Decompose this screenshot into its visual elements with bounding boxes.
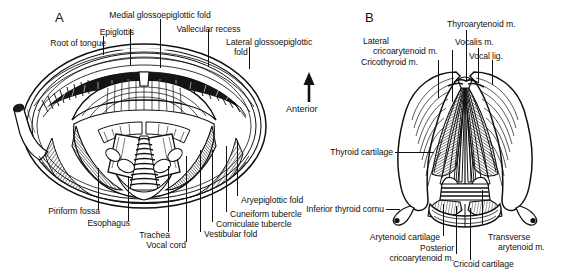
leader-cricothyroid [438, 60, 439, 98]
leader-thyroid-cartilage [395, 152, 434, 153]
leader-inferior-thyroid-cornu [386, 209, 400, 210]
label-corniculate-tubercle: Corniculate tubercle [216, 219, 291, 229]
leader-trachea [168, 166, 169, 232]
label-lateral-glossoepiglottic-fold: Lateral glossoepiglottic fold [226, 37, 336, 57]
leader-transverse-arytenoid [482, 190, 483, 225]
label-transverse-arytenoid-line2: arytenoid m. [498, 242, 545, 252]
label-epiglottis: Epiglottis [60, 27, 134, 37]
label-lateral-glossoepiglottic-line1: Lateral glossoepiglottic [226, 37, 312, 47]
label-transverse-arytenoid: Transverse arytenoid m. [488, 232, 545, 252]
label-piriform-fossa: Piriform fossa [10, 206, 100, 216]
label-vocal-cord: Vocal cord [120, 240, 186, 250]
leader-vallecular-recess [208, 29, 209, 67]
label-arytenoid-cartilage: Arytenoid cartilage [348, 232, 440, 242]
leader-lateral-cricoarytenoid [452, 50, 453, 102]
label-cricoid-cartilage: Cricoid cartilage [453, 259, 514, 269]
panel-b-illustration [370, 58, 560, 228]
anterior-label: Anterior [286, 104, 318, 114]
label-vestibular-fold: Vestibular fold [204, 229, 257, 239]
label-posterior-cricoarytenoid: Posterior cricoarytenoid m. [350, 243, 454, 263]
leader-esophagus [128, 176, 129, 221]
anterior-arrow-icon [299, 72, 319, 102]
label-vallecular-recess: Vallecular recess [155, 24, 262, 34]
leader-vocal-lig [492, 60, 493, 85]
label-inferior-thyroid-cornu: Inferior thyroid cornu [288, 204, 384, 214]
label-vocalis: Vocalis m. [455, 37, 494, 47]
label-transverse-arytenoid-line1: Transverse [488, 232, 530, 242]
anatomy-figure: A [0, 0, 561, 275]
leader-aryepiglottic-fold [237, 140, 238, 196]
label-medial-glossoepiglottic-fold: Medial glossoepiglottic fold [85, 10, 235, 20]
label-posterior-cricoarytenoid-line1: Posterior [420, 243, 454, 253]
label-root-of-tongue: Root of tongue [6, 38, 106, 48]
label-vocal-lig: Vocal lig. [469, 51, 503, 61]
leader-cuneiform-tubercle [226, 146, 227, 212]
label-posterior-cricoarytenoid-line2: cricoarytenoid m. [389, 253, 454, 263]
label-cricothyroid: Cricothyroid m. [361, 57, 418, 67]
label-thyroid-cartilage: Thyroid cartilage [300, 147, 393, 157]
label-esophagus: Esophagus [40, 218, 130, 228]
leader-vestibular-fold [200, 150, 201, 232]
label-thyroarytenoid: Thyroarytenoid m. [447, 19, 515, 29]
panel-a-letter: A [55, 10, 64, 25]
label-trachea: Trachea [90, 230, 170, 240]
panel-b-letter: B [365, 10, 374, 25]
leader-piriform-fossa [98, 168, 99, 210]
leader-cricoid-cartilage [470, 208, 471, 260]
label-lateral-cricoarytenoid-line2: cricoarytenoid m. [373, 46, 438, 56]
label-lateral-cricoarytenoid-line1: Lateral [363, 36, 389, 46]
leader-vocal-cord [186, 156, 187, 242]
label-lateral-glossoepiglottic-line2: fold [234, 47, 248, 57]
leader-corniculate-tubercle [212, 150, 213, 222]
leader-arytenoid-cartilage [443, 204, 444, 236]
label-lateral-cricoarytenoid: Lateral cricoarytenoid m. [363, 36, 438, 56]
leader-posterior-cricoarytenoid [456, 206, 457, 254]
